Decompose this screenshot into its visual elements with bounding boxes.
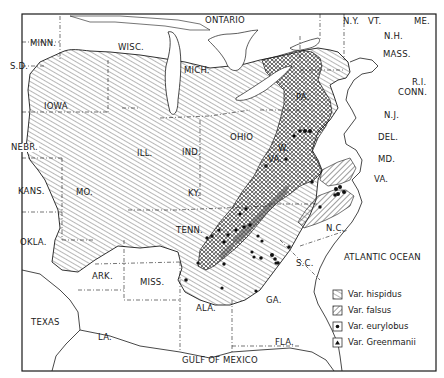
label-ala: ALA.	[196, 304, 216, 313]
label-tenn: TENN.	[176, 226, 203, 235]
label-md: MD.	[378, 155, 395, 164]
label-va-east: VA.	[374, 175, 388, 184]
label-w: W.	[278, 144, 289, 153]
label-la: LA.	[98, 333, 112, 342]
legend-label: Var. hispidus	[348, 289, 402, 299]
label-okla: OKLA.	[20, 238, 47, 247]
label-ontario: ONTARIO	[204, 16, 246, 25]
legend-item-hispidus: Var. hispidus	[330, 286, 438, 302]
label-ark: ARK.	[92, 272, 113, 281]
label-ill: ILL.	[137, 149, 152, 158]
label-ri: R.I.	[412, 78, 426, 87]
label-nebr: NEBR.	[10, 143, 39, 152]
label-conn: CONN.	[398, 88, 427, 97]
label-me: ME.	[414, 17, 430, 26]
legend-label: Var. falsus	[348, 305, 391, 315]
label-nh: N.H.	[384, 32, 403, 41]
label-ny: N.Y.	[343, 17, 359, 26]
legend-item-eurylobus: Var. eurylobus	[330, 318, 438, 334]
label-sd: S.D.	[10, 62, 28, 71]
label-ky: KY.	[188, 189, 200, 198]
label-nc: N.C.	[326, 224, 345, 233]
label-iowa: IOWA	[44, 102, 68, 111]
label-wisc: WISC.	[118, 43, 144, 52]
legend-label: Var. Greenmanii	[348, 337, 416, 347]
map-legend: Var. hispidus Var. falsus Var. eurylobus…	[330, 286, 438, 350]
label-ga: GA.	[266, 296, 282, 305]
label-mo: MO.	[76, 188, 93, 197]
label-nj: N.J.	[384, 111, 399, 120]
label-fla: FLA.	[275, 338, 294, 347]
legend-item-falsus: Var. falsus	[330, 302, 438, 318]
label-vt: VT.	[368, 17, 381, 26]
label-gulf-of-mexico: GULF OF MEXICO	[182, 356, 258, 365]
label-sc: S.C.	[296, 259, 314, 268]
label-ind: IND.	[182, 148, 201, 157]
legend-label: Var. eurylobus	[348, 321, 408, 331]
label-texas: TEXAS	[31, 318, 60, 327]
legend-item-greenmanii: Var. Greenmanii	[330, 334, 438, 350]
label-mass: MASS.	[383, 50, 411, 59]
label-pa: PA.	[296, 93, 310, 102]
label-va-west: VA.	[268, 155, 282, 164]
label-ohio: OHIO	[230, 133, 253, 142]
label-mich: MICH.	[184, 66, 210, 75]
label-atlantic-ocean: ATLANTIC OCEAN	[344, 253, 421, 262]
label-minn: MINN.	[30, 39, 56, 48]
label-miss: MISS.	[140, 278, 164, 287]
label-kans: KANS.	[18, 187, 45, 196]
label-del: DEL.	[378, 133, 398, 142]
